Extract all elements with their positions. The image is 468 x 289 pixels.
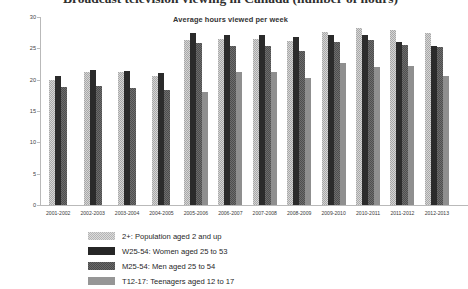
y-tick-label: 0 xyxy=(33,202,36,208)
bar-group xyxy=(385,17,419,205)
legend-item[interactable]: W25-54: Women aged 25 to 53 xyxy=(88,244,388,258)
bar-group xyxy=(75,17,109,205)
y-tick-mark xyxy=(37,174,40,175)
bar-group xyxy=(179,17,213,205)
bar xyxy=(408,66,414,205)
legend-label: T12-17: Teenagers aged 12 to 17 xyxy=(122,277,234,286)
legend-swatch xyxy=(88,262,115,270)
legend-item[interactable]: M25-54: Men aged 25 to 54 xyxy=(88,259,388,273)
bar-group xyxy=(282,17,316,205)
bar xyxy=(61,87,67,205)
x-tick-label: 2010-2011 xyxy=(351,207,385,219)
x-axis-labels: 2001-20022002-20032003-20042004-20052005… xyxy=(41,207,454,219)
x-tick-label: 2007-2008 xyxy=(248,207,282,219)
legend-item[interactable]: T12-17: Teenagers aged 12 to 17 xyxy=(88,274,388,288)
x-tick-label: 2002-2003 xyxy=(75,207,109,219)
y-tick-mark xyxy=(37,80,40,81)
bar-group xyxy=(213,17,247,205)
legend-item[interactable]: 2+: Population aged 2 and up xyxy=(88,229,388,243)
page-title: Broadcast television viewing in Canada (… xyxy=(0,0,461,6)
bar xyxy=(202,92,208,205)
legend-swatch xyxy=(88,247,115,255)
legend-swatch xyxy=(88,232,115,240)
bar xyxy=(164,90,170,205)
bar-group xyxy=(316,17,350,205)
y-tick-label: 25 xyxy=(30,45,36,51)
x-tick-label: 2009-2010 xyxy=(316,207,350,219)
bar xyxy=(236,72,242,205)
x-tick-label: 2008-2009 xyxy=(282,207,316,219)
x-tick-label: 2012-2013 xyxy=(420,207,454,219)
x-tick-label: 2005-2006 xyxy=(179,207,213,219)
bar xyxy=(340,63,346,205)
x-tick-label: 2006-2007 xyxy=(213,207,247,219)
y-tick-label: 10 xyxy=(30,139,36,145)
bar-group xyxy=(144,17,178,205)
y-tick-mark xyxy=(37,142,40,143)
y-tick-label: 30 xyxy=(30,14,36,20)
bar xyxy=(305,78,311,205)
bar xyxy=(96,86,102,205)
legend-label: M25-54: Men aged 25 to 54 xyxy=(122,262,215,271)
y-tick-label: 20 xyxy=(30,77,36,83)
y-tick-mark xyxy=(37,17,40,18)
x-tick-label: 2011-2012 xyxy=(385,207,419,219)
bar-group xyxy=(248,17,282,205)
bar-groups xyxy=(41,17,454,205)
bar xyxy=(130,88,136,205)
y-tick-label: 5 xyxy=(33,171,36,177)
bar xyxy=(443,76,449,205)
y-tick-mark xyxy=(37,48,40,49)
bar xyxy=(271,72,277,205)
x-tick-label: 2001-2002 xyxy=(41,207,75,219)
y-tick-mark xyxy=(37,205,40,206)
y-tick-mark xyxy=(37,111,40,112)
legend-label: 2+: Population aged 2 and up xyxy=(122,232,221,241)
legend-swatch xyxy=(88,277,115,285)
legend-label: W25-54: Women aged 25 to 53 xyxy=(122,247,227,256)
x-axis-line xyxy=(40,205,468,206)
x-tick-label: 2003-2004 xyxy=(110,207,144,219)
x-tick-label: 2004-2005 xyxy=(144,207,178,219)
plot-area: 051015202530 xyxy=(14,17,454,205)
bar-group xyxy=(420,17,454,205)
y-tick-label: 15 xyxy=(30,108,36,114)
chart-title-clipped: Broadcast television viewing in Canada (… xyxy=(0,0,461,6)
bar-group xyxy=(110,17,144,205)
bar-group xyxy=(351,17,385,205)
chart-legend: 2+: Population aged 2 and upW25-54: Wome… xyxy=(88,229,388,289)
bar xyxy=(374,67,380,205)
bar-group xyxy=(41,17,75,205)
